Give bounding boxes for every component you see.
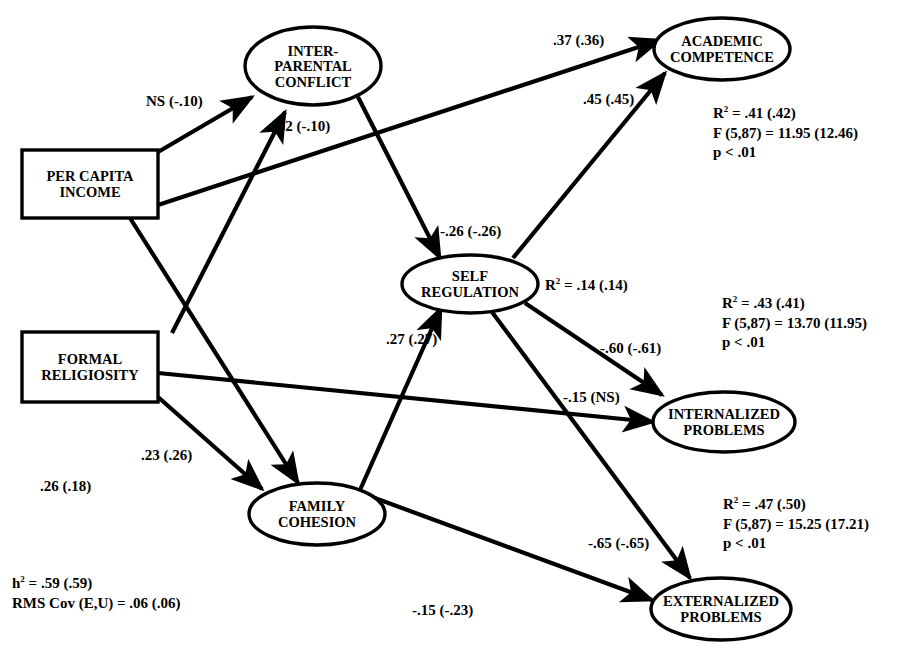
edge-label-fr_to_int: -.15 (NS) [563,390,620,406]
externalized_problems_stats-p-line: p < .01 [723,534,869,554]
node-label-per_capita_income-line-1: INCOME [59,184,120,200]
internalized_problems_stats-f-line: F (5,87) = 13.70 (11.95) [722,314,867,334]
academic_competence_stats-r2-value: = .41 (.42) [728,105,795,121]
rms-cov-line: RMS Cov (E,U) = .06 (.06) [12,594,181,614]
academic_competence_stats-p-line: p < .01 [713,143,858,163]
internalized_problems_stats-r2-value: = .43 (.41) [737,295,804,311]
internalized_problems_stats-p-line: p < .01 [722,333,867,353]
edge-label-sr_to_ext: -.65 (-.65) [588,536,649,552]
path-diagram: PER CAPITAINCOMEFORMALRELIGIOSITYINTER-P… [0,0,917,664]
edges-layer [130,40,690,600]
node-label-self_regulation-line-0: SELF [452,268,488,284]
self-regulation-r2-value: = .14 (.14) [560,277,627,293]
self-regulation-r2-annotation: R2 = .14 (.14) [545,276,628,294]
edge-fr_to_fc [158,397,262,489]
externalized_problems_stats-r2-line: R2 = .47 (.50) [723,495,869,515]
edge-label-fr_to_fc: .26 (.18) [40,479,91,495]
node-label-externalized_problems-line-1: PROBLEMS [680,609,761,625]
externalized_problems_stats-r2-value: = .47 (.50) [738,496,805,512]
node-label-interparental_conflict-line-2: CONFLICT [275,74,352,90]
academic_competence_stats-r2-symbol: R [713,105,724,121]
edge-label-pci_to_fc: .23 (.26) [141,448,192,464]
node-label-formal_religiosity-line-0: FORMAL [58,351,123,367]
edge-label-ipc_to_sr: -.26 (-.26) [440,224,501,240]
academic_competence_stats-f-line: F (5,87) = 11.95 (12.46) [713,124,858,144]
nodes-layer: PER CAPITAINCOMEFORMALRELIGIOSITYINTER-P… [22,18,795,640]
node-label-per_capita_income-line-0: PER CAPITA [46,168,134,184]
h-squared-line: h2 = .59 (.59) [12,574,181,594]
node-label-academic_competence-line-1: COMPETENCE [670,49,774,65]
externalized_problems_stats-r2-symbol: R [723,496,734,512]
edge-label-fc_to_ext: -.15 (-.23) [412,603,473,619]
node-label-self_regulation-line-1: REGULATION [421,284,520,300]
node-academic_competence: ACADEMICCOMPETENCE [654,18,790,80]
externalized_problems_stats: R2 = .47 (.50)F (5,87) = 15.25 (17.21)p … [723,495,869,554]
h-squared-value: = .59 (.59) [25,575,92,591]
edge-label-sr_to_ac: .45 (.45) [583,92,634,108]
node-formal_religiosity: FORMALRELIGIOSITY [22,332,158,402]
node-label-family_cohesion-line-1: COHESION [278,514,357,530]
edge-label-pci_to_ipc: NS (-.10) [146,94,203,110]
node-label-internalized_problems-line-0: INTERNALIZED [668,406,780,422]
node-label-internalized_problems-line-1: PROBLEMS [683,422,764,438]
edge-label-fr_to_ipc: -.32 (-.10) [269,119,330,135]
node-label-academic_competence-line-0: ACADEMIC [681,33,762,49]
edge-label-pci_to_ac: .37 (.36) [553,33,604,49]
node-self_regulation: SELFREGULATION [402,255,538,313]
fit-indices-block: h2 = .59 (.59) RMS Cov (E,U) = .06 (.06) [12,574,181,613]
internalized_problems_stats-r2-symbol: R [722,295,733,311]
node-per_capita_income: PER CAPITAINCOME [22,150,158,218]
node-label-interparental_conflict-line-1: PARENTAL [274,58,352,74]
edge-ipc_to_sr [358,97,440,258]
edge-pci_to_ac [158,40,660,205]
node-externalized_problems: EXTERNALIZEDPROBLEMS [651,578,791,640]
node-label-family_cohesion-line-0: FAMILY [289,498,346,514]
node-label-interparental_conflict-line-0: INTER- [288,43,339,59]
internalized_problems_stats: R2 = .43 (.41)F (5,87) = 13.70 (11.95)p … [722,294,867,353]
edge-fr_to_ipc [172,112,285,333]
edge-label-fc_to_sr: .27 (.27) [386,332,437,348]
internalized_problems_stats-r2-line: R2 = .43 (.41) [722,294,867,314]
node-family_cohesion: FAMILYCOHESION [249,483,385,545]
self-regulation-r2-symbol: R [545,277,556,293]
node-label-externalized_problems-line-0: EXTERNALIZED [663,593,779,609]
edge-label-sr_to_int: -.60 (-.61) [600,341,661,357]
academic_competence_stats: R2 = .41 (.42)F (5,87) = 11.95 (12.46)p … [713,104,858,163]
externalized_problems_stats-f-line: F (5,87) = 15.25 (17.21) [723,515,869,535]
node-label-formal_religiosity-line-1: RELIGIOSITY [41,367,139,383]
academic_competence_stats-r2-line: R2 = .41 (.42) [713,104,858,124]
node-interparental_conflict: INTER-PARENTALCONFLICT [245,27,381,105]
node-internalized_problems: INTERNALIZEDPROBLEMS [653,392,795,452]
